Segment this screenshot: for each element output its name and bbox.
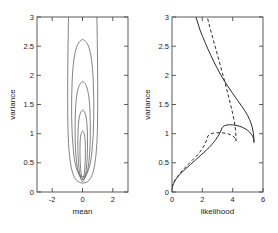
- likelihood-panel-svg: 0 0.5 1 1.5 2 2.5 3 0 2 4 6 likelihood v…: [0, 0, 278, 233]
- likelihood-x-ticks: [172, 17, 263, 192]
- likelihood-yaxis-title: variance: [143, 89, 152, 120]
- likelihood-plot-frame: [172, 17, 263, 192]
- likelihood-ytick-1: 1: [165, 129, 169, 138]
- figure-container: 0 0.5 1 1.5 2 2.5 3 -2 0 2 mean variance: [0, 0, 278, 233]
- likelihood-ytick-2p5: 2.5: [159, 42, 169, 51]
- likelihood-xtick-2: 2: [200, 195, 204, 204]
- likelihood-xtick-6: 6: [261, 195, 265, 204]
- likelihood-y-ticks: [172, 17, 263, 192]
- likelihood-ytick-0: 0: [165, 188, 169, 197]
- likelihood-ytick-1p5: 1.5: [159, 100, 169, 109]
- likelihood-xtick-4: 4: [231, 195, 235, 204]
- likelihood-panel: 0 0.5 1 1.5 2 2.5 3 0 2 4 6 likelihood v…: [0, 0, 278, 233]
- likelihood-curve-set: [172, 14, 254, 189]
- likelihood-xaxis-title: likelihood: [201, 207, 234, 216]
- likelihood-ytick-3: 3: [165, 13, 169, 22]
- likelihood-ytick-2: 2: [165, 71, 169, 80]
- likelihood-ytick-0p5: 0.5: [159, 158, 169, 167]
- likelihood-curve-solid: [172, 14, 254, 189]
- likelihood-xtick-0: 0: [170, 195, 174, 204]
